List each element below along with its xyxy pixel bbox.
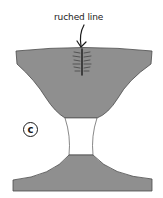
waist-shape: [65, 118, 97, 155]
upper-bowl-shape: [16, 48, 152, 119]
ruched-line-label: ruched line: [54, 12, 103, 22]
lower-base-shape: [13, 155, 152, 191]
pattern-shapes: [0, 0, 163, 198]
part-marker-c: c: [23, 122, 38, 137]
down-arrow-icon: [77, 25, 86, 47]
sewing-diagram: ruched line c: [0, 0, 163, 198]
